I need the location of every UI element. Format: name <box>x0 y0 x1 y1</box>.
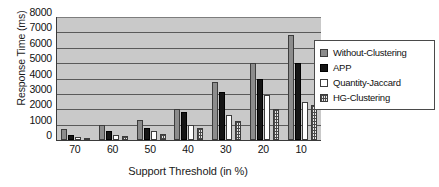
y-tick-label: 8000 <box>8 7 52 17</box>
bar <box>99 125 105 140</box>
bar-group <box>60 17 92 140</box>
bar <box>137 120 143 140</box>
y-tick-label: 5000 <box>8 53 52 63</box>
bar-group <box>173 17 205 140</box>
x-tick-label: 70 <box>59 143 91 157</box>
bar <box>302 102 308 140</box>
x-axis-tick-labels: 70605040302010 <box>56 143 320 157</box>
legend-swatch-icon <box>320 79 328 87</box>
bar <box>181 112 187 140</box>
bar <box>197 128 203 140</box>
bar <box>174 109 180 140</box>
bar <box>212 82 218 140</box>
bar <box>84 138 90 140</box>
bar-chart-figure: Response Time (ms) 800070006000500040003… <box>0 0 439 187</box>
bar <box>160 134 166 140</box>
legend-label: Without-Clustering <box>333 47 407 58</box>
legend-label: Quantity-Jaccard <box>333 77 401 88</box>
bar <box>75 137 81 140</box>
bar <box>151 131 157 140</box>
bar <box>235 121 241 140</box>
x-axis-title: Support Threshold (in %) <box>40 165 336 177</box>
bar <box>257 79 263 141</box>
bar-group <box>135 17 167 140</box>
x-tick-label: 10 <box>285 143 317 157</box>
bar-group <box>98 17 130 140</box>
x-tick-label: 60 <box>97 143 129 157</box>
legend-item: Quantity-Jaccard <box>320 75 431 90</box>
bar <box>113 135 119 140</box>
y-tick-label: 6000 <box>8 38 52 48</box>
y-tick-label: 0 <box>8 130 52 140</box>
bar <box>250 63 256 140</box>
legend-swatch-icon <box>320 94 328 102</box>
y-tick-label: 1000 <box>8 115 52 125</box>
legend-item: APP <box>320 60 431 75</box>
x-tick-label: 30 <box>210 143 242 157</box>
bar <box>68 135 74 140</box>
bar <box>295 63 301 140</box>
y-tick-label: 4000 <box>8 69 52 79</box>
x-tick-label: 40 <box>172 143 204 157</box>
bar <box>264 95 270 140</box>
bar <box>144 128 150 140</box>
y-tick-label: 7000 <box>8 22 52 32</box>
bar-group <box>211 17 243 140</box>
legend-swatch-icon <box>320 64 328 72</box>
bar <box>106 131 112 140</box>
y-axis-tick-labels: 800070006000500040003000200010000 <box>8 12 52 140</box>
y-tick-label: 3000 <box>8 84 52 94</box>
bar-group <box>248 17 280 140</box>
bar <box>273 109 279 140</box>
plot-area <box>56 17 321 141</box>
legend-item: HG-Clustering <box>320 90 431 105</box>
legend-label: APP <box>333 62 351 73</box>
bar <box>219 92 225 140</box>
bar <box>226 115 232 140</box>
bar-groups <box>57 17 321 140</box>
bar <box>122 136 128 140</box>
y-tick-label: 2000 <box>8 99 52 109</box>
legend: Without-ClusteringAPPQuantity-JaccardHG-… <box>314 40 435 110</box>
x-tick-label: 20 <box>247 143 279 157</box>
bar <box>188 125 194 140</box>
legend-item: Without-Clustering <box>320 45 431 60</box>
legend-swatch-icon <box>320 49 328 57</box>
legend-label: HG-Clustering <box>333 92 390 103</box>
bar <box>61 129 67 140</box>
bar <box>288 35 294 140</box>
x-tick-label: 50 <box>134 143 166 157</box>
